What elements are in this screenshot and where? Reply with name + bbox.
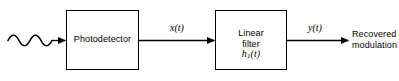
diagram-vector-layer: [0, 0, 399, 81]
impulse-response-argument: (t): [250, 48, 260, 59]
recovered-modulation-annotation: Recovered modulation: [352, 29, 399, 50]
signal-x-label: x(t): [151, 22, 203, 33]
linear-filter-block-label-line1: Linear: [215, 28, 287, 39]
recovered-modulation-line2: modulation: [352, 40, 399, 51]
block-diagram-canvas: Photodetector Linear filter h1(t) x(t) y…: [0, 0, 399, 81]
linear-filter-impulse-response-label: h1(t): [215, 49, 287, 62]
signal-y-label: y(t): [295, 22, 335, 33]
recovered-modulation-line1: Recovered: [352, 29, 399, 40]
optical-input-wave-path: [8, 35, 52, 46]
photodetector-block-label: Photodetector: [66, 34, 139, 45]
